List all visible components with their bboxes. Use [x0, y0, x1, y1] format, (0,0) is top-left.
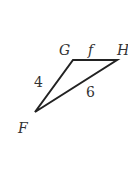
side-label-gh: f: [87, 42, 96, 58]
side-label-fh: 6: [86, 84, 95, 100]
vertex-label-g: G: [59, 42, 70, 58]
side-label-fg: 4: [34, 74, 43, 90]
triangle-fgh: [35, 60, 117, 112]
vertex-label-f: F: [17, 120, 29, 136]
vertex-label-h: H: [116, 42, 128, 58]
triangle-diagram: G f H 4 6 F: [0, 0, 128, 179]
